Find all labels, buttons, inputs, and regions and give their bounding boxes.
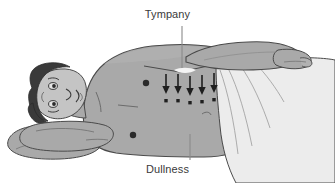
medical-illustration-figure: p Tympany Dullness bbox=[0, 0, 335, 183]
dullness-label: Dullness bbox=[0, 163, 335, 175]
illustration-canvas bbox=[0, 0, 335, 183]
tympany-label: Tympany bbox=[0, 8, 335, 20]
umbilicus-marker bbox=[130, 132, 136, 138]
percussion-dot bbox=[176, 99, 179, 102]
lower-arm bbox=[20, 121, 114, 151]
nipple-marker bbox=[143, 80, 149, 86]
pupil-upper bbox=[52, 84, 56, 88]
pupil-lower bbox=[52, 102, 56, 106]
percussion-dot bbox=[164, 99, 167, 102]
percussion-dot bbox=[212, 98, 215, 101]
percussion-dot bbox=[200, 100, 203, 103]
percussion-dot bbox=[188, 101, 191, 104]
